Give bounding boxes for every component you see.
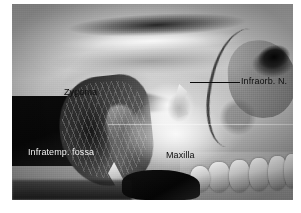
fossa-specular-highlight [103, 102, 147, 169]
maxilla-highlight [138, 78, 200, 132]
turbinate-tone [217, 96, 259, 138]
infraorbital-foramen-shadow [164, 90, 194, 126]
tooth [190, 166, 210, 192]
figure-caption [14, 203, 284, 210]
supraorbital-highlight [42, 26, 263, 56]
tooth [229, 160, 250, 192]
bone-fragment-highlight [108, 162, 124, 190]
oral-vestibule-shadow [122, 170, 200, 200]
nasal-cavity-deep-shadow [253, 40, 293, 74]
infraorbital-nerve-leader-line [190, 82, 240, 83]
annotation-label-infratemporal-fossa: Infratemp. fossa [28, 148, 94, 157]
annotation-label-zygoma: Zygoma [64, 88, 97, 97]
tooth [208, 162, 230, 192]
tooth [284, 154, 293, 188]
lower-field-shadow [12, 180, 132, 200]
annotation-label-infraorbital-nerve: Infraorb. N. [241, 77, 287, 86]
piriform-aperture-rim [202, 25, 275, 151]
photo-crease-line [108, 124, 293, 125]
orbital-rim-tone [32, 43, 268, 79]
infraorbital-nerve-stub [170, 84, 192, 118]
tooth [249, 158, 269, 191]
supraorbital-shadow [52, 7, 263, 42]
figure-root: Zygoma Infraorb. N. Infratemp. fossa Max… [0, 0, 301, 213]
dissection-photograph: Zygoma Infraorb. N. Infratemp. fossa Max… [12, 4, 293, 200]
annotation-label-maxilla: Maxilla [166, 151, 195, 160]
